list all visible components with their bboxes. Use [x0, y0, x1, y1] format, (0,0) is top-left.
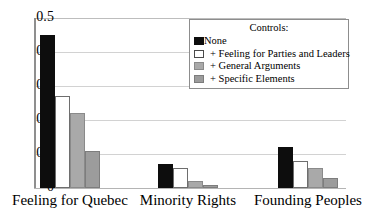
- bar: [173, 168, 188, 188]
- bar: [70, 113, 85, 188]
- legend-swatch-icon: [194, 75, 204, 83]
- x-axis-label: Founding Peoples: [228, 192, 366, 209]
- legend-swatch-icon: [194, 37, 204, 45]
- legend-swatch-icon: [194, 50, 204, 58]
- legend-title: Controls:: [194, 22, 344, 34]
- bar: [55, 96, 70, 188]
- legend-item[interactable]: + Specific Elements: [194, 73, 344, 86]
- bar: [308, 168, 323, 188]
- legend-item[interactable]: + Feeling for Parties and Leaders: [194, 48, 344, 61]
- legend-item[interactable]: + General Arguments: [194, 60, 344, 73]
- legend-item-label: + Specific Elements: [210, 73, 295, 85]
- legend-items: None+ Feeling for Parties and Leaders+ G…: [194, 35, 344, 85]
- bar: [323, 178, 338, 188]
- bar: [278, 147, 293, 188]
- legend: Controls: None+ Feeling for Parties and …: [189, 19, 349, 89]
- legend-swatch-icon: [194, 62, 204, 70]
- legend-item-label: + General Arguments: [210, 60, 300, 72]
- legend-item[interactable]: None: [194, 35, 344, 48]
- legend-item-label: + Feeling for Parties and Leaders: [210, 48, 350, 60]
- bar: [188, 181, 203, 188]
- legend-item-label: None: [204, 35, 227, 47]
- x-axis-line: [34, 188, 346, 189]
- bar: [158, 164, 173, 188]
- bar: [293, 161, 308, 188]
- bar: [85, 151, 100, 188]
- bar: [40, 35, 55, 188]
- bar: [203, 185, 218, 188]
